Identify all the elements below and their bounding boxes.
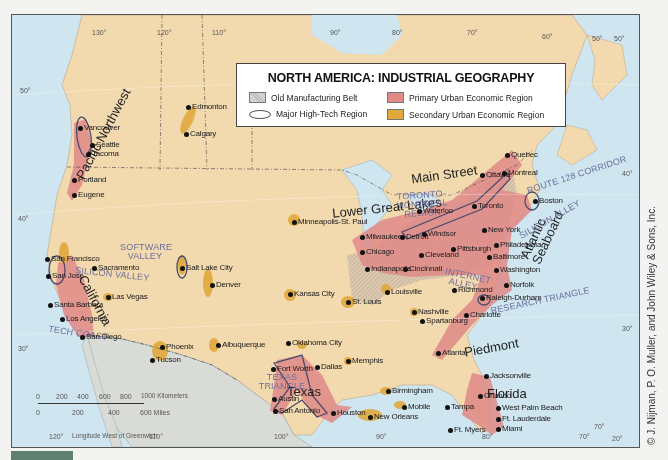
city-dot-icon [315, 365, 320, 370]
city-dot-icon [210, 283, 215, 288]
city-label: Waterloo [423, 207, 453, 215]
city-dot-icon [184, 132, 189, 137]
graticule-label: 60° [542, 33, 553, 40]
graticule-label: 80° [482, 433, 493, 440]
city-dot-icon [445, 405, 450, 410]
city-dot-icon [480, 173, 485, 178]
city-label: Santa Barbara [54, 301, 103, 309]
city-dot-icon [496, 406, 501, 411]
city-label: St. Louis [352, 298, 381, 306]
city-dot-icon [72, 193, 77, 198]
scale-bar: 0 200 400 600 800 1000 Kilometers 0 200 … [28, 391, 158, 431]
city-dot-icon [482, 228, 487, 233]
map-frame: 130° 120° 110° 90° 80° 70° 60° 50° 40° 3… [11, 14, 640, 448]
city-label: San Antonio [279, 407, 320, 415]
city-label: Boston [539, 197, 563, 205]
city-label: Ft. Lauderdale [502, 415, 551, 423]
city-label: Vancouver [84, 124, 120, 132]
graticule-label: 40° [622, 170, 633, 177]
city-label: Denver [216, 281, 241, 289]
city-dot-icon [46, 274, 51, 279]
city-dot-icon [419, 253, 424, 258]
city-label: Albuquerque [222, 341, 265, 349]
city-label: Louisville [391, 288, 422, 296]
city-dot-icon [504, 283, 509, 288]
city-dot-icon [48, 303, 53, 308]
city-dot-icon [533, 199, 538, 204]
graticule-label: 120° [157, 29, 171, 36]
graticule-label: 120° [49, 433, 63, 440]
city-label: Raleigh-Durham [486, 294, 541, 302]
graticule-label: 90° [376, 433, 387, 440]
city-dot-icon [480, 296, 485, 301]
graticule-label: 80° [392, 29, 403, 36]
ellipse-outline-icon [249, 110, 271, 119]
city-label: Seattle [96, 141, 120, 149]
graticule-label: 20° [612, 435, 623, 442]
city-label: Cleveland [425, 251, 459, 259]
city-label: Mobile [408, 403, 430, 411]
city-dot-icon [60, 317, 65, 322]
tech-label-toronto-montreal: TORONTO-MONTREAL REGION [381, 188, 463, 221]
legend-item-primary-urban: Primary Urban Economic Region [387, 92, 533, 103]
city-dot-icon [180, 266, 185, 271]
city-dot-icon [72, 178, 77, 183]
city-dot-icon [368, 415, 373, 420]
pink-swatch-icon [387, 92, 404, 103]
city-dot-icon [272, 397, 277, 402]
city-dot-icon [436, 351, 441, 356]
tech-label-software-valley: SOFTWARE VALLEY [120, 243, 170, 261]
city-dot-icon [90, 143, 95, 148]
city-label: Sacramento [98, 264, 139, 272]
city-dot-icon [271, 367, 276, 372]
city-dot-icon [502, 171, 507, 176]
city-dot-icon [412, 310, 417, 315]
city-dot-icon [448, 428, 453, 433]
graticule-label: 70° [594, 423, 605, 430]
city-label: Tacoma [92, 150, 119, 158]
city-dot-icon [505, 153, 510, 158]
graticule-label: 130° [92, 29, 106, 36]
city-label: Fort Worth [277, 365, 313, 373]
city-label: San Francisco [51, 255, 100, 263]
city-dot-icon [451, 247, 456, 252]
city-label: Washington [500, 266, 540, 274]
city-dot-icon [216, 343, 221, 348]
city-dot-icon [273, 409, 278, 414]
city-dot-icon [422, 232, 427, 237]
copyright-credit: © J. Nijman, P. O. Muller, and John Wile… [646, 206, 657, 445]
legend-item-old-manufacturing-belt: Old Manufacturing Belt [249, 92, 357, 103]
city-label: San Diego [86, 333, 122, 341]
city-label: Cincinnati [409, 265, 442, 273]
city-dot-icon [86, 152, 91, 157]
city-label: Eugene [78, 191, 104, 199]
city-label: Spartanburg [426, 317, 468, 325]
legend-title: NORTH AMERICA: INDUSTRIAL GEOGRAPHY [237, 71, 565, 85]
city-label: Austin [278, 395, 299, 403]
city-dot-icon [386, 389, 391, 394]
city-label: Montreal [508, 169, 538, 177]
city-label: Nashville [418, 308, 449, 316]
city-dot-icon [402, 405, 407, 410]
city-label: Baltimore [493, 253, 525, 261]
city-label: Tampa [451, 403, 474, 411]
city-label: Atlanta [442, 349, 466, 357]
city-label: Miami [502, 425, 522, 433]
city-dot-icon [478, 394, 483, 399]
city-label: Jacksonville [490, 372, 531, 380]
city-dot-icon [420, 319, 425, 324]
city-label: Pittsburgh [457, 245, 491, 253]
city-label: Quebec [511, 151, 538, 159]
tech-label-texas-triangle: TEXAS TRIANGLE [256, 373, 308, 391]
city-label: Kansas City [294, 290, 334, 298]
city-label: Milwaukee [366, 233, 402, 241]
city-label: Toronto [478, 202, 503, 210]
city-label: Edmonton [192, 103, 227, 111]
city-dot-icon [494, 268, 499, 273]
city-dot-icon [496, 417, 501, 422]
city-label: Philadelphia [500, 241, 541, 249]
city-label: Minneapolis-St. Paul [298, 218, 367, 226]
city-label: New York [488, 226, 520, 234]
city-dot-icon [288, 292, 293, 297]
city-label: West Palm Beach [502, 404, 562, 412]
